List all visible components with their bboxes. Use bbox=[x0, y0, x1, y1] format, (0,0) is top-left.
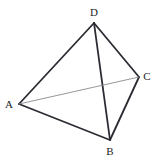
vertex-label-d: D bbox=[90, 7, 98, 18]
vertex-label-c: C bbox=[143, 71, 150, 82]
edge-ac bbox=[19, 77, 139, 104]
geometry-figure-canvas: ABCD bbox=[0, 0, 155, 162]
vertex-label-b: B bbox=[106, 146, 113, 157]
edge-ab bbox=[19, 104, 110, 140]
edge-ad bbox=[19, 23, 94, 104]
vertex-label-a: A bbox=[5, 99, 13, 110]
edge-bc bbox=[110, 77, 139, 140]
tetrahedron-svg bbox=[0, 0, 155, 162]
edge-layer bbox=[19, 23, 139, 140]
